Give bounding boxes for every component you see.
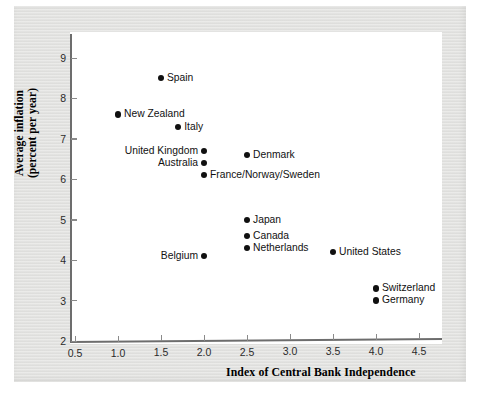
data-point-label: Canada (253, 231, 289, 241)
figure: 98765432 0.51.01.52.02.53.03.54.04.5 Ave… (0, 0, 481, 399)
x-tick-label: 4.5 (402, 345, 436, 357)
x-tick-label: 2.5 (230, 346, 264, 358)
x-tick-mark (419, 333, 420, 339)
y-tick-mark (71, 219, 77, 220)
y-axis-title-line1: Average inflation (13, 90, 25, 176)
data-point-label: Switzerland (382, 283, 435, 293)
x-axis-title: Index of Central Bank Independence (226, 365, 416, 380)
x-tick-mark (118, 336, 119, 342)
data-point[interactable] (115, 111, 121, 117)
x-tick-label: 2.0 (187, 346, 221, 358)
data-point-label: France/Norway/Sweden (210, 170, 320, 180)
data-point[interactable] (373, 297, 379, 303)
y-tick-label: 8 (46, 92, 66, 104)
y-tick-mark (71, 58, 77, 59)
x-tick-mark (247, 335, 248, 341)
data-point-label: Japan (253, 215, 281, 225)
x-tick-mark (376, 334, 377, 340)
x-tick-label: 1.5 (144, 346, 178, 358)
x-tick-mark (333, 334, 334, 340)
y-tick-mark (71, 260, 77, 261)
x-tick-label: 1.0 (101, 347, 135, 359)
data-point-label: Spain (167, 73, 193, 83)
data-point-label: Netherlands (253, 243, 309, 253)
data-point-label: New Zealand (124, 109, 185, 119)
y-tick-label: 7 (46, 133, 66, 145)
y-tick-label: 3 (46, 295, 66, 307)
y-tick-label: 4 (46, 254, 66, 266)
data-point-label: United Kingdom (125, 146, 198, 156)
x-tick-label: 0.5 (58, 347, 92, 359)
data-point-label: Italy (184, 122, 203, 132)
y-axis-line (70, 34, 72, 342)
y-tick-mark (71, 300, 77, 301)
y-axis-title: Average inflation (percent per year) (13, 63, 39, 203)
y-tick-mark (71, 179, 77, 180)
data-point[interactable] (244, 217, 250, 223)
data-point-label: Australia (158, 158, 198, 168)
data-point-label: Belgium (161, 251, 198, 261)
x-tick-mark (75, 336, 76, 342)
x-tick-mark (204, 335, 205, 341)
y-axis-title-line2: (percent per year) (26, 88, 38, 178)
x-tick-label: 4.0 (359, 345, 393, 357)
x-tick-label: 3.0 (273, 345, 307, 357)
data-point-label: United States (339, 247, 401, 257)
y-tick-label: 6 (46, 173, 66, 185)
y-tick-label: 9 (46, 52, 66, 64)
y-tick-label: 2 (46, 335, 66, 347)
y-tick-mark (71, 98, 77, 99)
y-tick-label: 5 (46, 214, 66, 226)
data-point[interactable] (373, 285, 379, 291)
data-point-label: Germany (382, 295, 424, 305)
x-tick-label: 3.5 (316, 345, 350, 357)
x-tick-mark (161, 335, 162, 341)
y-tick-mark (71, 138, 77, 139)
x-tick-mark (290, 334, 291, 340)
data-point-label: Denmark (253, 150, 295, 160)
